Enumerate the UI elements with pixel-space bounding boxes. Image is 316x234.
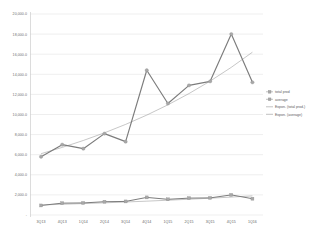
y-axis-tick-label: 10,000.0 — [13, 113, 27, 117]
x-axis-tick-label: 3Q13 — [37, 220, 46, 224]
series-line-total-prod — [41, 34, 252, 157]
x-axis-tick-label: 4Q14 — [142, 220, 151, 224]
data-point-marker — [82, 201, 85, 204]
data-point-marker — [82, 147, 85, 150]
x-axis-tick-label: 3Q14 — [121, 220, 130, 224]
x-axis-tick-label: 2Q14 — [100, 220, 109, 224]
y-axis-tick-label: 16,000.0 — [13, 53, 27, 57]
x-axis-tick-label: 4Q15 — [227, 220, 236, 224]
legend-swatch-marker — [268, 98, 271, 101]
chart-legend: total prodaverageExpon. (total prod.)Exp… — [266, 90, 305, 117]
x-axis-tick-label: 2Q15 — [185, 220, 194, 224]
y-axis-tick-label: 6,000.0 — [15, 153, 27, 157]
data-point-marker — [124, 140, 127, 143]
data-point-marker — [103, 132, 106, 135]
data-point-markers — [39, 32, 254, 207]
legend-label: Expon. (total prod.) — [275, 105, 305, 109]
data-point-marker — [40, 204, 43, 207]
chart-container: 20,000.018,000.016,000.014,000.012,000.0… — [0, 0, 316, 234]
data-point-marker — [230, 32, 233, 35]
data-point-marker — [187, 84, 190, 87]
data-point-marker — [103, 200, 106, 203]
y-axis-tick-labels: 20,000.018,000.016,000.014,000.012,000.0… — [13, 12, 28, 217]
y-axis-tick-label: 2,000.0 — [15, 193, 27, 197]
x-axis-tick-label: 1Q14 — [79, 220, 88, 224]
data-point-marker — [124, 200, 127, 203]
data-point-marker — [166, 198, 169, 201]
y-axis-tick-label: 12,000.0 — [13, 93, 27, 97]
legend-label: Expon. (average) — [275, 113, 302, 117]
y-axis-tick-label: 8,000.0 — [15, 133, 27, 137]
data-point-marker — [251, 81, 254, 84]
x-axis-tick-label: 3Q15 — [206, 220, 215, 224]
chart-plot-area: 20,000.018,000.016,000.014,000.012,000.0… — [0, 0, 316, 234]
data-point-marker — [61, 202, 64, 205]
data-point-marker — [145, 196, 148, 199]
data-series — [41, 34, 252, 205]
data-point-marker — [208, 80, 211, 83]
y-axis-tick-label: 4,000.0 — [15, 173, 27, 177]
data-point-marker — [61, 143, 64, 146]
x-axis-tick-label: 1Q15 — [163, 220, 172, 224]
y-axis-tick-label: 14,000.0 — [13, 73, 27, 77]
legend-label: average — [275, 98, 288, 102]
y-axis-tick-label: 20,000.0 — [13, 12, 27, 16]
x-axis-tick-labels: 3Q134Q131Q142Q143Q144Q141Q152Q153Q154Q15… — [37, 220, 257, 224]
data-point-marker — [166, 102, 169, 105]
data-point-marker — [230, 193, 233, 196]
y-axis-tick-label: - — [26, 213, 28, 217]
gridlines — [31, 14, 264, 215]
legend-swatch-marker — [268, 90, 271, 93]
y-axis-tick-label: 18,000.0 — [13, 33, 27, 37]
trendline-expon-total-prod- — [41, 52, 252, 154]
x-axis-tick-label: 4Q13 — [58, 220, 67, 224]
x-axis-tick-label: 1Q16 — [248, 220, 257, 224]
legend-label: total prod — [275, 90, 290, 94]
trendlines — [41, 52, 252, 205]
data-point-marker — [251, 197, 254, 200]
data-point-marker — [188, 197, 191, 200]
data-point-marker — [145, 69, 148, 72]
data-point-marker — [209, 196, 212, 199]
data-point-marker — [39, 155, 42, 158]
